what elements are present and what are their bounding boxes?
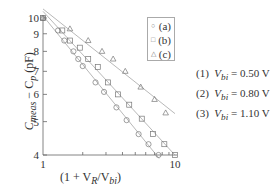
note-sub: bi	[221, 113, 228, 123]
legend: ○ (a) □ (b) △ (c)	[147, 17, 175, 61]
circle-marker-icon	[146, 142, 151, 147]
x-tick-label: 1	[40, 158, 46, 170]
triangle-marker-icon	[110, 56, 116, 61]
legend-item-b: □ (b)	[151, 33, 171, 47]
x-tick-label: 10	[170, 158, 182, 170]
square-marker-icon: □	[151, 33, 156, 47]
annotation-2: (2) Vbi = 0.80 V	[196, 85, 270, 105]
x-label-post: )	[117, 170, 121, 184]
note-sub: bi	[221, 92, 228, 102]
note-value: = 1.10 V	[231, 107, 270, 119]
triangle-marker-icon	[163, 110, 169, 115]
y-label-unit: (pF)	[22, 52, 36, 76]
y-label-mid: − C	[22, 81, 36, 102]
y-label-sub-p: p	[27, 76, 38, 81]
x-axis-label: (1 + VR/Vbi)	[60, 170, 121, 186]
legend-label: (b)	[158, 33, 171, 47]
note-value: = 0.80 V	[231, 87, 270, 99]
x-label-sub-bi: bi	[109, 175, 117, 186]
square-marker-icon	[150, 132, 155, 137]
note-num: (2)	[196, 87, 209, 99]
circle-marker-icon	[101, 89, 106, 94]
triangle-marker-icon	[99, 48, 105, 53]
note-value: = 0.50 V	[231, 67, 270, 79]
annotation-3: (3) Vbi = 1.10 V	[196, 105, 270, 125]
annotation-list: (1) Vbi = 0.50 V (2) Vbi = 0.80 V (3) Vb…	[196, 65, 270, 126]
note-num: (1)	[196, 67, 209, 79]
legend-item-c: △ (c)	[151, 47, 171, 61]
legend-label: (c)	[159, 47, 171, 61]
circle-marker-icon: ○	[151, 19, 157, 33]
y-tick-label: 10	[28, 12, 40, 24]
x-label-pre: (1 + V	[60, 170, 91, 184]
square-marker-icon	[162, 142, 167, 147]
triangle-marker-icon: △	[151, 47, 157, 61]
legend-item-a: ○ (a)	[151, 19, 171, 33]
note-num: (3)	[196, 107, 209, 119]
y-axis-label: Cmeas − Cp (pF)	[22, 31, 38, 151]
x-label-mid: /V	[97, 170, 109, 184]
triangle-marker-icon	[85, 38, 91, 43]
annotation-1: (1) Vbi = 0.50 V	[196, 65, 270, 85]
circle-marker-icon	[136, 132, 141, 137]
legend-label: (a)	[159, 19, 171, 33]
y-label-sub-meas: meas	[27, 102, 38, 123]
note-sub: bi	[221, 72, 228, 82]
y-label-c: C	[22, 122, 36, 130]
